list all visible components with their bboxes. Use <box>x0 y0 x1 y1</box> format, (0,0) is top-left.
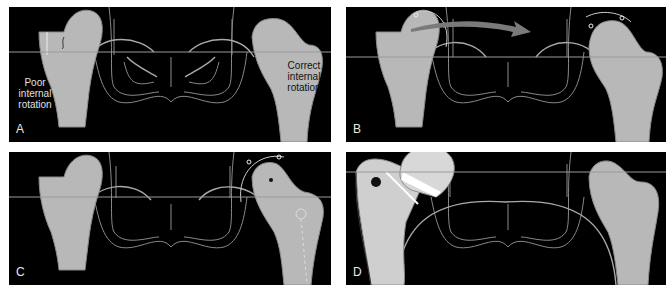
panel-label: D <box>353 265 362 279</box>
annotation-line: internal <box>281 71 327 82</box>
panel-d-drawing <box>346 152 666 285</box>
panel-b: B <box>346 7 666 142</box>
panel-label: B <box>353 122 361 136</box>
left-femur <box>39 155 102 270</box>
panel-d: D <box>346 152 666 285</box>
annotation-line: rotation <box>281 82 327 93</box>
right-femur <box>589 161 659 285</box>
panel-label: C <box>16 265 25 279</box>
panel-c-drawing <box>9 152 331 285</box>
panel-a: Poor internal rotation Correct internal … <box>9 7 331 142</box>
panel-c: C <box>9 152 331 285</box>
annotation-line: rotation <box>15 99 55 110</box>
stem-hole <box>371 177 381 187</box>
panel-label: A <box>16 122 24 136</box>
right-femur <box>589 21 662 142</box>
annotation-line: internal <box>15 88 55 99</box>
panel-b-drawing <box>346 7 666 142</box>
acetabulum-right <box>189 40 254 58</box>
annotation-correct-rotation: Correct internal rotation <box>281 60 327 93</box>
annotation-line: Correct <box>281 60 327 71</box>
annotation-poor-rotation: Poor internal rotation <box>15 77 55 110</box>
annotation-line: Poor <box>15 77 55 88</box>
right-femur-implant <box>252 163 323 285</box>
